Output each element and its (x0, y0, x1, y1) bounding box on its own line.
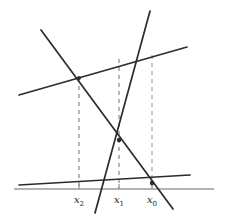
label-x0: x0 (147, 194, 157, 208)
label-x0-subscript: 0 (153, 200, 157, 208)
axis-label-group: x2x1x0 (74, 194, 157, 208)
label-x2-subscript: 2 (80, 200, 84, 208)
solid-lines-group (19, 11, 190, 213)
upper-shallow-line (19, 47, 187, 95)
label-x1-subscript: 1 (120, 200, 124, 208)
point-upper-left (77, 76, 81, 80)
ascending-steep-line (95, 11, 150, 213)
point-center (117, 138, 121, 142)
label-x1: x1 (114, 194, 124, 208)
point-lower-right (150, 181, 154, 185)
figure-container: x2x1x0 (0, 0, 228, 219)
tick-mark-group (79, 184, 152, 189)
line-intersection-diagram: x2x1x0 (0, 0, 228, 219)
label-x2: x2 (74, 194, 84, 208)
